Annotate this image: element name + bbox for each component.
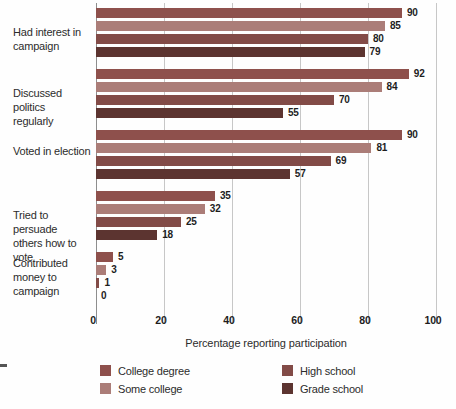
bar-high-school-tried-to-persuade-others-how-to-vote: [96, 217, 181, 227]
bar-some-college-voted-in-election: [96, 143, 371, 153]
bar-high-school-had-interest-in-campaign: [96, 34, 368, 44]
bar-grade-school-had-interest-in-campaign: [96, 47, 365, 57]
value-label-college-degree-voted-in-election: 90: [407, 130, 418, 140]
x-axis-title: Percentage reporting participation: [96, 337, 436, 349]
legend-label-college-degree: College degree: [118, 365, 190, 377]
category-label-line: Discussed politics: [13, 86, 95, 114]
participation-bar-chart-figure: Had interest incampaign90858079Discussed…: [0, 0, 456, 409]
category-label-line: Voted in election: [13, 144, 95, 158]
bar-college-degree-voted-in-election: [96, 130, 402, 140]
bar-grade-school-discussed-politics-regularly: [96, 108, 283, 118]
scan-edge-artifact: [0, 364, 7, 367]
category-label-had-interest-in-campaign: Had interest incampaign: [13, 25, 95, 53]
category-label-voted-in-election: Voted in election: [13, 144, 95, 158]
legend-item-grade-school: Grade school: [282, 383, 363, 394]
value-label-grade-school-had-interest-in-campaign: 79: [370, 47, 381, 57]
gridline-100: [436, 3, 437, 324]
legend-item-high-school: High school: [282, 365, 363, 376]
bar-some-college-tried-to-persuade-others-how-to-vote: [96, 204, 205, 214]
value-label-high-school-contributed-money-to-campaign: 1: [104, 278, 109, 288]
legend-label-high-school: High school: [300, 365, 355, 377]
x-tick-0: 0: [70, 314, 116, 326]
category-label-discussed-politics-regularly: Discussed politicsregularly: [13, 86, 95, 128]
legend-swatch-high-school: [282, 365, 293, 376]
value-label-some-college-discussed-politics-regularly: 84: [387, 82, 398, 92]
value-label-high-school-discussed-politics-regularly: 70: [339, 95, 350, 105]
value-label-college-degree-contributed-money-to-campaign: 5: [118, 252, 123, 262]
value-label-grade-school-tried-to-persuade-others-how-to-vote: 18: [162, 230, 173, 240]
bar-college-degree-had-interest-in-campaign: [96, 8, 402, 18]
value-label-some-college-had-interest-in-campaign: 85: [390, 21, 401, 31]
value-label-college-degree-had-interest-in-campaign: 90: [407, 8, 418, 18]
category-label-line: regularly: [13, 114, 95, 128]
x-tick-20: 20: [138, 314, 184, 326]
legend-column-1: College degreeSome college: [100, 365, 190, 394]
legend: College degreeSome collegeHigh schoolGra…: [0, 365, 456, 399]
bar-high-school-discussed-politics-regularly: [96, 95, 334, 105]
bar-grade-school-tried-to-persuade-others-how-to-vote: [96, 230, 157, 240]
legend-label-some-college: Some college: [118, 383, 182, 395]
legend-column-2: High schoolGrade school: [282, 365, 363, 394]
category-label-line: campaign: [13, 39, 95, 53]
category-label-line: Tried to persuade: [13, 208, 95, 236]
legend-item-college-degree: College degree: [100, 365, 190, 376]
bar-college-degree-contributed-money-to-campaign: [96, 252, 113, 262]
value-label-grade-school-discussed-politics-regularly: 55: [288, 108, 299, 118]
bar-college-degree-discussed-politics-regularly: [96, 69, 409, 79]
category-label-line: money to: [13, 270, 95, 284]
value-label-college-degree-discussed-politics-regularly: 92: [414, 69, 425, 79]
category-label-contributed-money-to-campaign: Contributedmoney tocampaign: [13, 256, 95, 298]
legend-label-grade-school: Grade school: [300, 383, 363, 395]
bar-some-college-contributed-money-to-campaign: [96, 265, 106, 275]
bar-college-degree-tried-to-persuade-others-how-to-vote: [96, 191, 215, 201]
x-tick-40: 40: [206, 314, 252, 326]
category-label-line: campaign: [13, 284, 95, 298]
bar-some-college-had-interest-in-campaign: [96, 21, 385, 31]
value-label-high-school-voted-in-election: 69: [336, 156, 347, 166]
value-label-high-school-had-interest-in-campaign: 80: [373, 34, 384, 44]
legend-swatch-college-degree: [100, 365, 111, 376]
x-tick-60: 60: [274, 314, 320, 326]
value-label-some-college-tried-to-persuade-others-how-to-vote: 32: [210, 204, 221, 214]
value-label-some-college-contributed-money-to-campaign: 3: [111, 265, 116, 275]
value-label-high-school-tried-to-persuade-others-how-to-vote: 25: [186, 217, 197, 227]
x-axis-ticks: 020406080100: [0, 314, 456, 328]
category-label-line: Contributed: [13, 256, 95, 270]
x-tick-100: 100: [410, 314, 456, 326]
value-label-college-degree-tried-to-persuade-others-how-to-vote: 35: [220, 191, 231, 201]
x-tick-80: 80: [342, 314, 388, 326]
bar-high-school-voted-in-election: [96, 156, 331, 166]
plot-area: Had interest incampaign90858079Discussed…: [0, 0, 456, 330]
value-label-grade-school-voted-in-election: 57: [295, 169, 306, 179]
legend-swatch-some-college: [100, 383, 111, 394]
value-label-grade-school-contributed-money-to-campaign: 0: [101, 291, 106, 301]
value-label-some-college-voted-in-election: 81: [376, 143, 387, 153]
bar-high-school-contributed-money-to-campaign: [96, 278, 99, 288]
bar-some-college-discussed-politics-regularly: [96, 82, 382, 92]
legend-swatch-grade-school: [282, 383, 293, 394]
legend-item-some-college: Some college: [100, 383, 190, 394]
bar-grade-school-voted-in-election: [96, 169, 290, 179]
category-label-line: Had interest in: [13, 25, 95, 39]
